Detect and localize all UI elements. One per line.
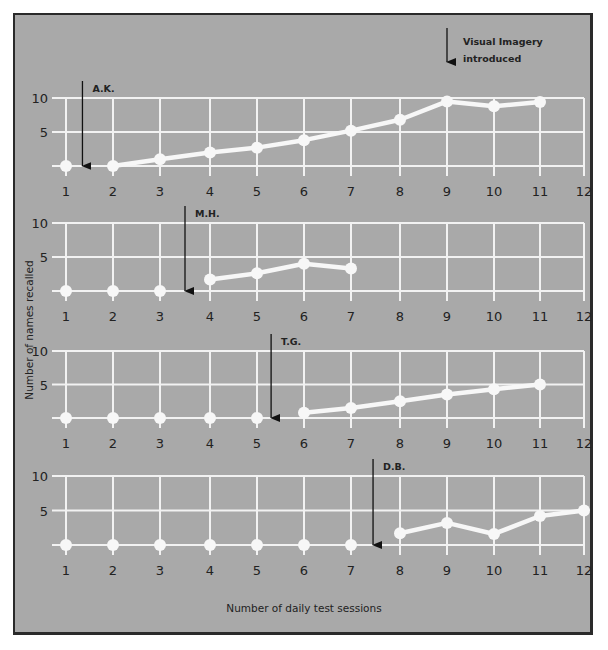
svg-text:M.H.: M.H. [195,208,220,219]
panel-tg: 105123456789101112T.G. [31,334,592,451]
svg-text:9: 9 [443,309,451,324]
svg-text:10: 10 [486,436,503,451]
x-axis-title: Number of daily test sessions [226,602,381,614]
svg-text:5: 5 [40,378,48,393]
svg-text:10: 10 [486,309,503,324]
svg-text:1: 1 [62,309,70,324]
svg-text:7: 7 [347,436,355,451]
svg-text:5: 5 [40,504,48,519]
visual-imagery-annotation: Visual Imageryintroduced [447,28,544,64]
panel-ak: 105123456789101112A.K. [31,81,592,199]
chart: Visual Imageryintroduced1051234567891011… [0,0,608,650]
svg-text:5: 5 [253,309,261,324]
svg-text:12: 12 [576,436,593,451]
svg-text:4: 4 [206,184,214,199]
svg-text:2: 2 [109,436,117,451]
panel-mh: 105123456789101112M.H. [31,206,592,324]
svg-text:Visual Imagery: Visual Imagery [463,36,544,47]
svg-text:introduced: introduced [463,53,521,64]
svg-text:3: 3 [156,563,164,578]
svg-text:12: 12 [576,309,593,324]
svg-text:8: 8 [396,184,404,199]
svg-text:11: 11 [532,309,549,324]
svg-text:2: 2 [109,563,117,578]
svg-text:5: 5 [40,125,48,140]
svg-text:A.K.: A.K. [92,83,114,94]
svg-text:5: 5 [40,250,48,265]
svg-text:10: 10 [486,184,503,199]
svg-text:11: 11 [532,563,549,578]
svg-text:10: 10 [31,91,48,106]
svg-text:4: 4 [206,563,214,578]
svg-text:D.B.: D.B. [383,461,405,472]
svg-text:8: 8 [396,309,404,324]
y-axis-title: Number of names recalled [23,260,35,399]
svg-text:12: 12 [576,184,593,199]
svg-text:8: 8 [396,436,404,451]
svg-text:10: 10 [486,563,503,578]
svg-text:12: 12 [576,563,593,578]
panel-db: 105123456789101112D.B. [31,459,592,578]
svg-text:1: 1 [62,563,70,578]
svg-text:10: 10 [31,216,48,231]
svg-text:6: 6 [300,563,308,578]
svg-text:9: 9 [443,184,451,199]
svg-text:9: 9 [443,436,451,451]
svg-text:2: 2 [109,184,117,199]
svg-text:11: 11 [532,436,549,451]
svg-text:7: 7 [347,309,355,324]
svg-text:6: 6 [300,436,308,451]
svg-text:8: 8 [396,563,404,578]
svg-text:3: 3 [156,309,164,324]
svg-text:T.G.: T.G. [281,336,301,347]
svg-text:4: 4 [206,309,214,324]
svg-text:5: 5 [253,184,261,199]
svg-text:5: 5 [253,563,261,578]
svg-text:6: 6 [300,184,308,199]
svg-text:7: 7 [347,563,355,578]
svg-text:1: 1 [62,436,70,451]
svg-text:3: 3 [156,184,164,199]
svg-text:10: 10 [31,469,48,484]
svg-text:5: 5 [253,436,261,451]
svg-text:4: 4 [206,436,214,451]
svg-text:9: 9 [443,563,451,578]
svg-text:2: 2 [109,309,117,324]
svg-text:11: 11 [532,184,549,199]
svg-text:6: 6 [300,309,308,324]
svg-text:3: 3 [156,436,164,451]
svg-text:7: 7 [347,184,355,199]
svg-text:1: 1 [62,184,70,199]
